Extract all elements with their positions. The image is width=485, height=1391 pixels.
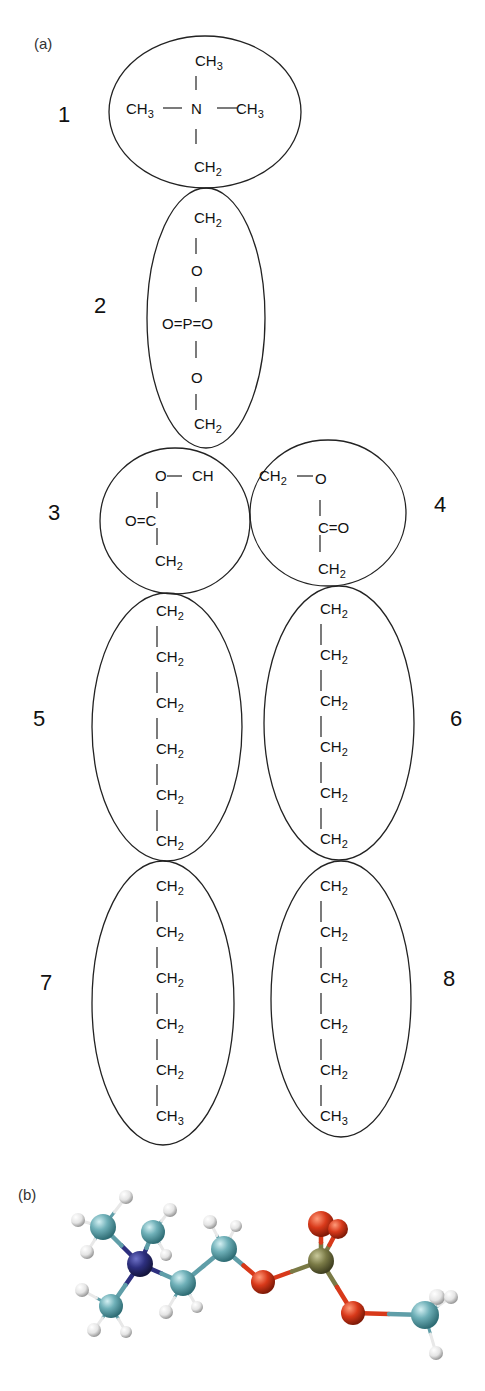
bead-number-8: 8	[443, 966, 455, 991]
bead1-nitrogen: N	[191, 100, 202, 117]
hydrogen-atom	[80, 1245, 94, 1259]
phosphorus-atom	[308, 1248, 334, 1274]
chain-group: CH2	[320, 877, 348, 897]
bead1-bottom-ch2: CH2	[194, 158, 222, 178]
chain-group: CH2	[156, 877, 184, 897]
bead-number-4: 4	[434, 492, 446, 517]
bead1-left-ch3: CH3	[126, 100, 154, 120]
panel-b-label: (b)	[18, 1186, 36, 1203]
panel-a-label: (a)	[34, 35, 52, 52]
bead-3-ellipse	[100, 448, 250, 594]
bead2-bottom-ch2: CH2	[194, 415, 222, 435]
chain-group: CH3	[320, 1107, 348, 1127]
hydrogen-atom	[120, 1326, 132, 1338]
chain-group: CH2	[156, 1015, 184, 1035]
nitrogen-atom	[127, 1251, 153, 1277]
bead7-chain: CH2CH2CH2CH2CH2CH3	[156, 877, 184, 1127]
bead-number-5: 5	[33, 706, 45, 731]
hydrogen-atom	[230, 1220, 242, 1232]
chain-group: CH2	[320, 830, 348, 850]
chain-group: CH2	[156, 740, 184, 760]
bead-number-6: 6	[450, 706, 462, 731]
molecule-3d-model	[71, 1190, 458, 1360]
bead-number-3: 3	[48, 500, 60, 525]
chain-group: CH2	[320, 969, 348, 989]
oxygen-atom	[328, 1219, 348, 1239]
bead-5-ellipse	[92, 593, 242, 861]
hydrogen-atom	[159, 1305, 173, 1319]
carbon-atom	[90, 1214, 116, 1240]
bead-number-7: 7	[40, 970, 52, 995]
chain-group: CH2	[320, 1061, 348, 1081]
carbon-atom	[99, 1294, 123, 1318]
chain-group: CH2	[320, 692, 348, 712]
chain-group: CH2	[320, 1015, 348, 1035]
chain-group: CH2	[156, 648, 184, 668]
hydrogen-atom	[444, 1290, 458, 1304]
panel-a: (a) 12345678 CH3 CH3 N CH3 CH2 CH2 O O=P…	[33, 35, 462, 1145]
hydrogen-atom	[119, 1190, 133, 1204]
bead-8-ellipse	[271, 861, 411, 1137]
bead1-right-ch3: CH3	[236, 100, 264, 120]
bead-3-ester: O CH O=C CH2	[125, 467, 214, 572]
bead4-carbonyl: C=O	[318, 519, 349, 536]
chain-group: CH2	[320, 784, 348, 804]
bead3-carbonyl: O=C	[125, 512, 156, 529]
hydrogen-atom	[87, 1323, 101, 1337]
hydrogen-atom	[191, 1301, 203, 1313]
chain-group: CH2	[156, 969, 184, 989]
bead4-ch2: CH2	[259, 467, 287, 487]
chain-group: CH2	[320, 923, 348, 943]
hydrogen-atom	[71, 1213, 85, 1227]
bead-2-phosphate: CH2 O O=P=O O CH2	[162, 209, 222, 435]
chain-group: CH2	[156, 1061, 184, 1081]
bead2-top-ch2: CH2	[194, 209, 222, 229]
hydrogen-atom	[429, 1346, 443, 1360]
carbon-atom	[170, 1270, 196, 1296]
lipid-coarse-grain-figure: (a) 12345678 CH3 CH3 N CH3 CH2 CH2 O O=P…	[0, 0, 485, 1391]
bead1-top-ch3: CH3	[195, 52, 223, 72]
bead5-chain: CH2CH2CH2CH2CH2CH2	[156, 602, 184, 852]
bead4-oxygen: O	[315, 470, 327, 487]
bead-ellipses	[92, 36, 414, 1145]
hydrogen-atom	[160, 1249, 172, 1261]
bead-number-1: 1	[58, 102, 70, 127]
chain-group: CH2	[320, 646, 348, 666]
bead2-lower-oxygen: O	[191, 369, 203, 386]
bead-number-2: 2	[94, 293, 106, 318]
bead6-chain: CH2CH2CH2CH2CH2CH2	[320, 600, 348, 850]
chain-group: CH3	[156, 1107, 184, 1127]
chain-group: CH2	[320, 738, 348, 758]
carbon-atom	[141, 1220, 165, 1244]
hydrogen-atom	[75, 1283, 89, 1297]
chain-group: CH2	[156, 832, 184, 852]
chain-group: CH2	[156, 923, 184, 943]
bead-numbers: 12345678	[33, 102, 462, 995]
bead-6-ellipse	[264, 586, 414, 860]
bead2-upper-oxygen: O	[191, 262, 203, 279]
carbon-atom	[211, 1236, 237, 1262]
oxygen-atom	[341, 1301, 365, 1325]
bead-7-ellipse	[92, 861, 234, 1145]
hydrogen-atom	[163, 1203, 177, 1217]
bead8-chain: CH2CH2CH2CH2CH2CH3	[320, 877, 348, 1127]
bead3-bottom-ch2: CH2	[155, 552, 183, 572]
carbon-atom	[411, 1301, 439, 1329]
panel-b: (b)	[18, 1186, 458, 1360]
chain-group: CH2	[156, 694, 184, 714]
bead4-bottom-ch2: CH2	[318, 560, 346, 580]
oxygen-atom	[251, 1270, 275, 1294]
bead2-phosphate: O=P=O	[162, 315, 213, 332]
bead3-oxygen: O	[155, 467, 167, 484]
hydrogen-atom	[203, 1215, 217, 1229]
bead-1-choline: CH3 CH3 N CH3 CH2	[126, 52, 264, 178]
alkyl-chains: CH2CH2CH2CH2CH2CH2CH2CH2CH2CH2CH2CH2CH2C…	[156, 600, 348, 1127]
bead-4-ester: CH2 O C=O CH2	[259, 467, 349, 580]
chain-group: CH2	[156, 602, 184, 622]
chain-group: CH2	[156, 786, 184, 806]
chain-group: CH2	[320, 600, 348, 620]
bead3-ch: CH	[192, 467, 214, 484]
